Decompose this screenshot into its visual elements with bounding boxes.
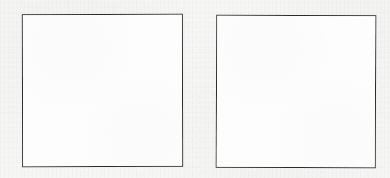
right-empty-box-content xyxy=(217,16,376,168)
left-empty-box[interactable] xyxy=(22,14,183,167)
scanned-page xyxy=(0,0,390,178)
right-empty-box[interactable] xyxy=(216,15,377,169)
left-empty-box-content xyxy=(23,15,182,166)
